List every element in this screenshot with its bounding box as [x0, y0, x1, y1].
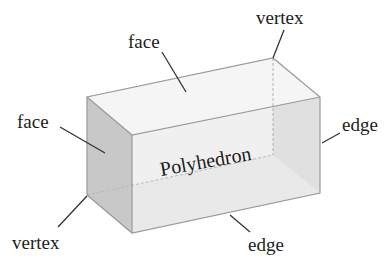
label-face-left: face: [17, 111, 49, 132]
polyhedron-diagram: face vertex face edge vertex edge Polyhe…: [0, 0, 387, 262]
label-edge-right: edge: [342, 114, 378, 135]
polyhedron-svg: face vertex face edge vertex edge Polyhe…: [0, 0, 387, 262]
label-edge-bottom: edge: [248, 234, 284, 255]
label-vertex-bottom: vertex: [12, 232, 60, 253]
label-vertex-top: vertex: [256, 7, 304, 28]
label-face-top: face: [128, 31, 160, 52]
